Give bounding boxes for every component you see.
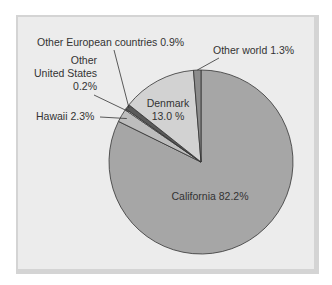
leader-other-world <box>197 58 219 70</box>
label-other-world: Other world 1.3% <box>213 44 294 56</box>
leader-other-united-states <box>94 95 129 112</box>
label-denmark: Denmark13.0 % <box>147 97 190 122</box>
label-hawaii: Hawaii 2.3% <box>36 110 94 122</box>
label-california: California 82.2% <box>171 190 248 202</box>
leader-other-european-countries <box>114 50 129 108</box>
pie-chart: California 82.2%Hawaii 2.3%OtherUnited S… <box>0 0 332 285</box>
label-other-european-countries: Other European countries 0.9% <box>37 36 184 48</box>
label-other-united-states: OtherUnited States0.2% <box>34 54 98 92</box>
